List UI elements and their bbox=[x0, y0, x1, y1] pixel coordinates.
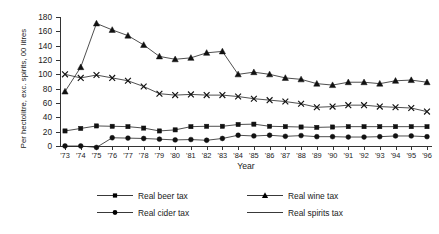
legend-item-real-beer-tax[interactable]: Real beer tax bbox=[96, 190, 246, 201]
legend-item-real-spirits-tax[interactable]: Real spirits tax bbox=[246, 207, 396, 218]
x-tick-label: '94 bbox=[391, 151, 401, 160]
x-tick bbox=[128, 146, 129, 150]
x-tick-label: '86 bbox=[265, 151, 275, 160]
x-tick bbox=[411, 146, 412, 150]
series-real-beer-tax bbox=[63, 122, 429, 133]
y-tick-label: 160 bbox=[38, 26, 55, 36]
square-marker-icon bbox=[96, 190, 134, 201]
x-tick bbox=[285, 146, 286, 150]
x-tick-label: '80 bbox=[170, 151, 180, 160]
y-axis-title: Per hectolitre, exc. spirits, 00 litres bbox=[19, 14, 28, 164]
y-tick-label: 120 bbox=[38, 55, 55, 65]
x-tick bbox=[348, 146, 349, 150]
plot-area: 020406080100120140160180 '73'74'75'76'77… bbox=[60, 17, 432, 146]
y-tick-label: 100 bbox=[38, 69, 55, 79]
legend-label: Real beer tax bbox=[138, 191, 188, 201]
x-tick bbox=[427, 146, 428, 150]
legend-label: Real spirits tax bbox=[288, 208, 343, 218]
x-tick-label: '79 bbox=[155, 151, 165, 160]
legend-label: Real wine tax bbox=[288, 191, 338, 201]
y-tick-label: 40 bbox=[43, 112, 55, 122]
cross-marker-icon bbox=[246, 207, 284, 218]
x-tick-label: '89 bbox=[312, 151, 322, 160]
x-tick bbox=[159, 146, 160, 150]
x-tick-label: '92 bbox=[359, 151, 369, 160]
x-tick bbox=[380, 146, 381, 150]
x-tick bbox=[207, 146, 208, 150]
circle-marker-icon bbox=[96, 207, 134, 218]
x-axis-title: Year bbox=[60, 161, 432, 171]
x-tick-label: '87 bbox=[281, 151, 291, 160]
series-real-cider-tax bbox=[63, 133, 430, 150]
x-tick-label: '95 bbox=[406, 151, 416, 160]
chart-legend: Real beer taxReal wine taxReal cider tax… bbox=[96, 187, 396, 221]
x-tick-label: '82 bbox=[202, 151, 212, 160]
x-tick-label: '96 bbox=[422, 151, 432, 160]
x-tick-label: '77 bbox=[123, 151, 133, 160]
y-tick-label: 140 bbox=[38, 41, 55, 51]
x-tick bbox=[238, 146, 239, 150]
x-tick-label: '83 bbox=[218, 151, 228, 160]
y-tick-label: 20 bbox=[43, 127, 55, 137]
y-tick-label: 80 bbox=[43, 84, 55, 94]
x-tick bbox=[191, 146, 192, 150]
x-tick-label: '85 bbox=[249, 151, 259, 160]
series-layer bbox=[60, 17, 432, 146]
x-tick bbox=[112, 146, 113, 150]
x-tick-label: '81 bbox=[186, 151, 196, 160]
legend-label: Real cider tax bbox=[138, 208, 189, 218]
x-tick bbox=[364, 146, 365, 150]
x-axis-line bbox=[60, 146, 432, 147]
x-tick-label: '73 bbox=[60, 151, 70, 160]
x-tick bbox=[222, 146, 223, 150]
legend-item-real-cider-tax[interactable]: Real cider tax bbox=[96, 207, 246, 218]
x-tick bbox=[254, 146, 255, 150]
x-tick bbox=[270, 146, 271, 150]
x-tick-label: '84 bbox=[233, 151, 243, 160]
x-tick bbox=[301, 146, 302, 150]
y-tick-label: 60 bbox=[43, 98, 55, 108]
x-tick-label: '75 bbox=[92, 151, 102, 160]
y-tick bbox=[56, 146, 60, 147]
x-tick-label: '76 bbox=[107, 151, 117, 160]
x-tick-label: '88 bbox=[296, 151, 306, 160]
y-tick-label: 180 bbox=[38, 12, 55, 22]
triangle-marker-icon bbox=[246, 190, 284, 201]
x-tick-label: '74 bbox=[76, 151, 86, 160]
x-tick-label: '91 bbox=[343, 151, 353, 160]
x-tick bbox=[317, 146, 318, 150]
x-tick-label: '90 bbox=[328, 151, 338, 160]
x-tick-label: '78 bbox=[139, 151, 149, 160]
legend-item-real-wine-tax[interactable]: Real wine tax bbox=[246, 190, 396, 201]
series-real-spirits-tax bbox=[62, 71, 430, 114]
x-tick bbox=[175, 146, 176, 150]
x-tick bbox=[396, 146, 397, 150]
line-chart: Per hectolitre, exc. spirits, 00 litres … bbox=[0, 0, 439, 234]
series-real-wine-tax bbox=[62, 20, 430, 94]
x-tick-label: '93 bbox=[375, 151, 385, 160]
x-tick bbox=[333, 146, 334, 150]
y-tick-label: 0 bbox=[47, 141, 55, 151]
x-tick bbox=[144, 146, 145, 150]
